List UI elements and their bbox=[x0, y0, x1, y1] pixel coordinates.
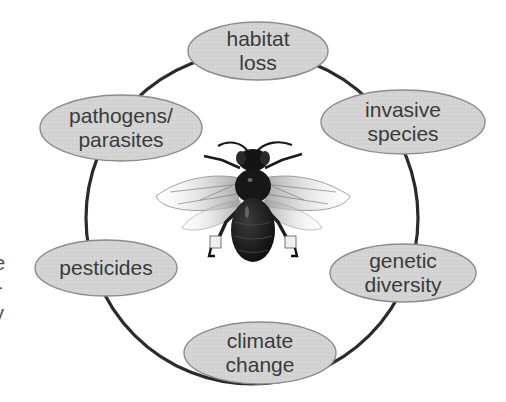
bee-thorax bbox=[235, 169, 271, 203]
right-antenna bbox=[258, 142, 292, 150]
node-label: diversity bbox=[364, 273, 442, 296]
node-label: genetic bbox=[369, 249, 437, 272]
node-label: pathogens/ bbox=[69, 104, 173, 127]
node-invasive-species: invasivespecies bbox=[321, 90, 485, 154]
node-climate-change: climatechange bbox=[184, 322, 336, 384]
node-genetic-diversity: geneticdiversity bbox=[330, 244, 476, 302]
bee-illustration bbox=[156, 142, 350, 262]
bee-stressors-diagram: habitatlossinvasivespeciesgeneticdiversi… bbox=[0, 0, 506, 402]
edge-fragment: e bbox=[0, 252, 5, 274]
clipped-text-fragments: e - y bbox=[0, 252, 5, 324]
node-label: species bbox=[367, 122, 438, 145]
node-habitat-loss: habitatloss bbox=[188, 22, 328, 80]
node-label: pesticides bbox=[59, 256, 152, 279]
node-label: climate bbox=[227, 329, 294, 352]
node-label: invasive bbox=[365, 98, 441, 121]
node-label: habitat bbox=[226, 27, 289, 50]
node-pathogens-parasites: pathogens/parasites bbox=[40, 95, 202, 161]
node-label: parasites bbox=[78, 128, 163, 151]
edge-fragment: y bbox=[0, 302, 4, 324]
node-label: change bbox=[226, 353, 295, 376]
node-pesticides: pesticides bbox=[35, 240, 177, 296]
left-antenna bbox=[218, 143, 247, 150]
node-label: loss bbox=[239, 51, 276, 74]
edge-fragment: - bbox=[0, 276, 3, 298]
